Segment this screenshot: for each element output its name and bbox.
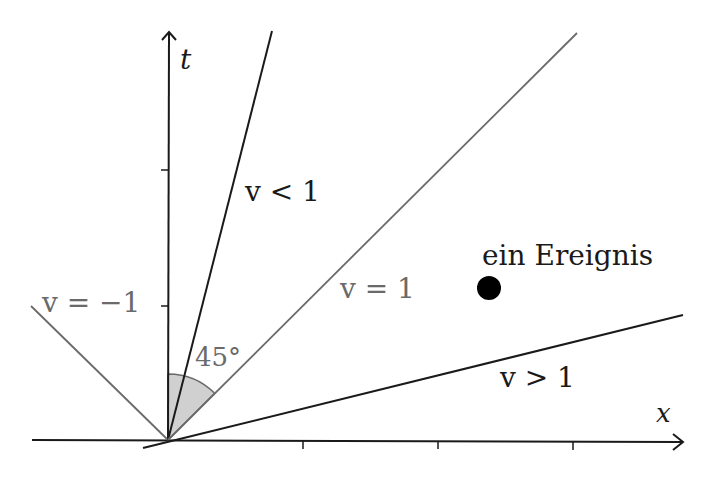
angle-wedge xyxy=(168,374,215,440)
worldline-v-less-1 xyxy=(168,31,272,440)
x-axis xyxy=(32,440,682,442)
worldline-v-greater-1 xyxy=(143,315,683,448)
event-dot xyxy=(477,276,501,300)
label-v-equal-1: v = 1 xyxy=(340,275,415,303)
t-axis xyxy=(168,33,169,440)
worldline-v-minus-1 xyxy=(31,306,168,440)
t-axis-label: t xyxy=(180,46,191,74)
x-axis-label: x xyxy=(656,400,671,426)
angle-label: 45° xyxy=(195,344,241,370)
label-v-greater-1: v > 1 xyxy=(500,364,575,392)
label-v-minus-1: v = −1 xyxy=(42,289,140,317)
spacetime-diagram: t x v < 1 v = 1 v > 1 v = −1 45° ein Ere… xyxy=(0,0,715,483)
label-v-less-1: v < 1 xyxy=(245,178,320,206)
event-label: ein Ereignis xyxy=(482,242,653,270)
